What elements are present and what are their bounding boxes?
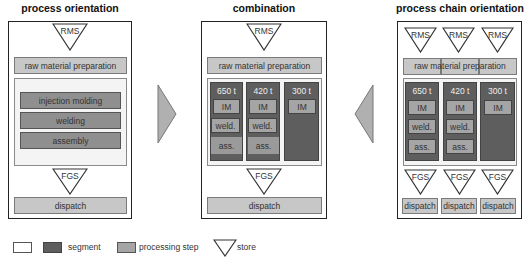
- store-fgs: FGS: [246, 168, 282, 195]
- segment-label: 420 t: [246, 86, 280, 96]
- step-ass: ass.: [211, 137, 242, 154]
- store-fgs-1: FGS: [404, 169, 437, 195]
- store-rms-1: RMS: [404, 27, 437, 53]
- arrow-left-icon: [354, 84, 374, 144]
- step-injection-molding: injection molding: [20, 92, 121, 109]
- store-rms-2: RMS: [442, 27, 475, 53]
- step-raw-material-preparation: raw material preparation: [207, 57, 322, 74]
- title-process-orientation: process orientation: [8, 2, 132, 14]
- legend-segment-label: segment: [68, 242, 101, 252]
- step-weld: weld.: [248, 118, 277, 133]
- arrow-right-icon: [157, 84, 177, 144]
- step-im: IM: [213, 99, 240, 114]
- step-welding: welding: [20, 112, 121, 129]
- store-fgs: FGS: [52, 168, 88, 195]
- step-im: IM: [446, 100, 474, 115]
- step-im: IM: [288, 99, 316, 114]
- store-label: FGS: [246, 171, 282, 181]
- title-combination: combination: [201, 2, 327, 14]
- store-fgs-2: FGS: [443, 169, 476, 195]
- store-label: FGS: [404, 172, 437, 182]
- raw-material-label: raw material preparation: [403, 58, 517, 75]
- segment-label: 650 t: [210, 86, 243, 96]
- legend-processing-step-label: processing step: [139, 242, 199, 252]
- step-weld: weld.: [408, 119, 436, 134]
- store-label: FGS: [481, 172, 514, 182]
- step-ass: ass.: [248, 137, 279, 154]
- legend-empty-box: [13, 242, 32, 253]
- step-ass: ass.: [446, 139, 474, 154]
- legend-store-icon: [213, 239, 237, 257]
- step-dispatch-2: dispatch: [441, 198, 477, 214]
- store-label: RMS: [442, 30, 475, 40]
- store-rms-3: RMS: [481, 27, 514, 53]
- step-assembly: assembly: [20, 132, 121, 149]
- title-process-chain-orientation: process chain orientation: [394, 2, 526, 14]
- step-dispatch-3: dispatch: [480, 198, 516, 214]
- segment-label: 420 t: [443, 86, 477, 96]
- step-weld: weld.: [446, 119, 474, 134]
- store-label: RMS: [246, 26, 282, 36]
- store-rms: RMS: [246, 23, 282, 51]
- store-label: RMS: [481, 30, 514, 40]
- step-dispatch-1: dispatch: [402, 198, 438, 214]
- step-dispatch: dispatch: [207, 197, 322, 214]
- step-ass: ass.: [408, 139, 436, 154]
- step-weld: weld.: [211, 118, 240, 133]
- legend-processing-step-swatch: [117, 242, 136, 253]
- store-label: RMS: [404, 30, 437, 40]
- store-label: FGS: [443, 172, 476, 182]
- store-label: RMS: [52, 26, 88, 36]
- legend-store-label: store: [237, 242, 256, 252]
- legend-segment-swatch: [43, 242, 62, 253]
- step-raw-material-preparation: raw material preparation: [403, 58, 517, 75]
- step-dispatch: dispatch: [14, 197, 127, 214]
- step-im: IM: [484, 100, 512, 115]
- segment-label: 300 t: [480, 86, 515, 96]
- store-label: FGS: [52, 171, 88, 181]
- store-rms: RMS: [52, 23, 88, 51]
- step-raw-material-preparation: raw material preparation: [14, 57, 127, 74]
- segment-label: 300 t: [284, 86, 319, 96]
- step-im: IM: [249, 99, 277, 114]
- store-fgs-3: FGS: [481, 169, 514, 195]
- segment-label: 650 t: [405, 86, 439, 96]
- step-im: IM: [408, 100, 436, 115]
